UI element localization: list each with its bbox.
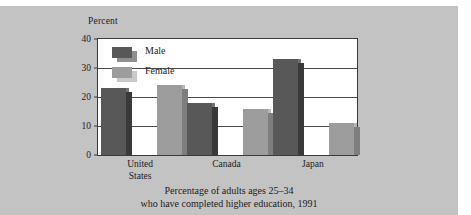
caption-line-1: Percentage of adults ages 25–34: [0, 184, 458, 197]
bar-side-face: [126, 92, 132, 155]
y-axis-tick-label: 20: [82, 92, 92, 102]
legend-swatch: [112, 67, 132, 78]
legend-swatch-face: [112, 67, 132, 78]
y-axis-tick-mark: [94, 126, 98, 127]
chart-figure: Percent 010203040 MaleFemale UnitedState…: [0, 6, 458, 215]
bar-front-face: [101, 88, 126, 155]
bar-side-face: [354, 127, 360, 155]
bar: [157, 85, 182, 155]
y-axis-tick-mark: [94, 97, 98, 98]
x-axis-label-line: Japan: [263, 159, 363, 171]
bar-side-face: [298, 63, 304, 155]
bar: [101, 88, 126, 155]
x-axis-label-line: United: [90, 159, 190, 171]
y-axis-tick-mark: [94, 68, 98, 69]
gridline: [98, 97, 357, 98]
y-axis-tick-label: 40: [82, 34, 92, 44]
bar-front-face: [243, 109, 268, 155]
bar-front-face: [273, 59, 298, 155]
bar: [243, 109, 268, 155]
bar-side-face: [212, 107, 218, 155]
bar-front-face: [157, 85, 182, 155]
y-axis-tick-label: 30: [82, 63, 92, 73]
x-axis-label-line: Canada: [177, 159, 277, 171]
legend-swatch: [112, 47, 132, 58]
plot-area: 010203040 MaleFemale: [97, 38, 358, 156]
y-axis-tick-label: 10: [82, 121, 92, 131]
caption-line-2: who have completed higher education, 199…: [0, 197, 458, 210]
gridline: [98, 126, 357, 127]
legend-label: Female: [145, 65, 174, 76]
bar: [187, 103, 212, 155]
legend-label: Male: [145, 45, 166, 56]
figure-caption: Percentage of adults ages 25–34 who have…: [0, 184, 458, 210]
bar: [329, 123, 354, 155]
bar-front-face: [329, 123, 354, 155]
legend-swatch-face: [112, 47, 132, 58]
y-axis-tick-mark: [94, 39, 98, 40]
x-axis-label: Japan: [263, 159, 363, 171]
bar-front-face: [187, 103, 212, 155]
x-axis-label: UnitedStates: [90, 159, 190, 182]
x-axis-label: Canada: [177, 159, 277, 171]
x-axis-label-line: States: [90, 171, 190, 183]
gridline: [98, 68, 357, 69]
y-axis-tick-mark: [94, 155, 98, 156]
y-axis-title: Percent: [88, 16, 118, 26]
bar: [273, 59, 298, 155]
